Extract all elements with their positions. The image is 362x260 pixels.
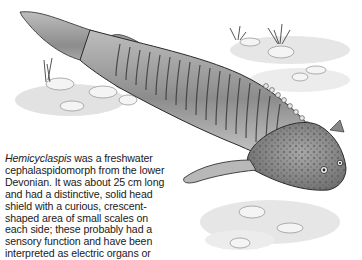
caption-line: shield with a curious, crescent- <box>5 200 147 212</box>
caption-line: interpreted as electric organs or <box>5 247 151 259</box>
caption-genus: Hemicyclaspis <box>5 152 71 164</box>
caption-line: and had a distinctive, solid head <box>5 188 152 200</box>
caption-line: cephalaspidomorph from the lower <box>5 164 164 176</box>
caption-line: each side; these probably had a <box>5 223 152 235</box>
figure-caption: Hemicyclaspis was a freshwatercephalaspi… <box>5 153 195 260</box>
caption-line: Devonian. It was about 25 cm long <box>5 176 164 188</box>
caption-line: sensory function and have been <box>5 235 152 247</box>
caption-line: was a freshwater <box>71 152 152 164</box>
caption-line: shaped area of small scales on <box>5 212 148 224</box>
